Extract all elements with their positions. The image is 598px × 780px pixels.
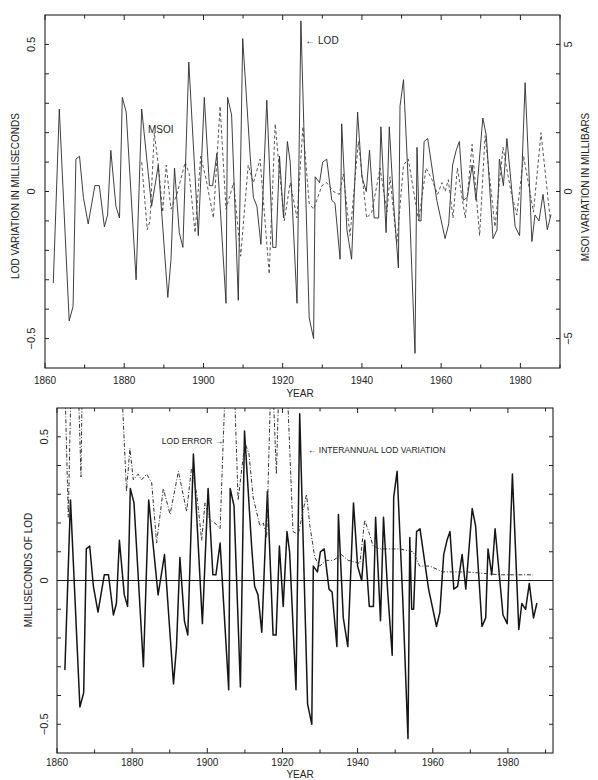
series-group [53, 21, 551, 353]
figure: 18601880190019201940196019800.50−0.550−5… [0, 0, 598, 780]
y-tick-label: 0 [25, 188, 37, 194]
annotation-label: MSOI [148, 124, 174, 135]
y2-tick-label: 0 [562, 188, 574, 194]
annotation-label: ← INTERANNUAL LOD VARIATION [308, 445, 445, 455]
series-interannual-lod-variation-line [65, 414, 537, 739]
x-tick-label: 1880 [121, 757, 144, 768]
x-tick-label: 1960 [430, 375, 453, 386]
y2-tick-label: 5 [562, 41, 574, 47]
y-tick-label: 0.5 [38, 429, 50, 444]
series-lod-line [53, 21, 551, 353]
x-tick-label: 1980 [509, 375, 532, 386]
bottom-y-axis-title: MILLISECONDS OF LOD [23, 513, 34, 627]
top-x-axis-title: YEAR [286, 388, 313, 399]
bottom-x-axis-title: YEAR [286, 769, 313, 780]
x-tick-label: 1900 [192, 375, 215, 386]
bottom-chart-lod-error: 18601880190019201940196019800.50−0.5LOD … [38, 351, 553, 769]
x-tick-label: 1980 [497, 757, 520, 768]
annotation-label: LOD ERROR → [162, 436, 223, 446]
x-tick-label: 1900 [196, 757, 219, 768]
x-tick-label: 1920 [272, 375, 295, 386]
x-tick-label: 1860 [46, 757, 69, 768]
y-tick-label: 0.5 [25, 37, 37, 52]
x-tick-label: 1860 [34, 375, 57, 386]
top-y-axis-title: LOD VARIATION IN MILLISECONDS [10, 113, 21, 279]
x-tick-label: 1940 [351, 375, 374, 386]
axes: 18601880190019201940196019800.50−0.550−5 [25, 15, 574, 386]
annotation-label: ← LOD [305, 35, 338, 46]
y-tick-label: 0 [38, 577, 50, 583]
top-y2-axis-title: MSOI VARIATION IN MILLIBARS [580, 112, 591, 261]
x-tick-label: 1940 [346, 757, 369, 768]
y-tick-label: −0.5 [25, 328, 37, 350]
top-chart-lod-msoi: 18601880190019201940196019800.50−0.550−5… [25, 15, 574, 386]
x-tick-label: 1880 [113, 375, 136, 386]
y-tick-label: −0.5 [38, 713, 50, 735]
y2-tick-label: −5 [562, 332, 574, 345]
x-tick-label: 1920 [271, 757, 294, 768]
axes: 18601880190019201940196019800.50−0.5 [38, 408, 553, 768]
series-group [64, 351, 537, 739]
x-tick-label: 1960 [422, 757, 445, 768]
